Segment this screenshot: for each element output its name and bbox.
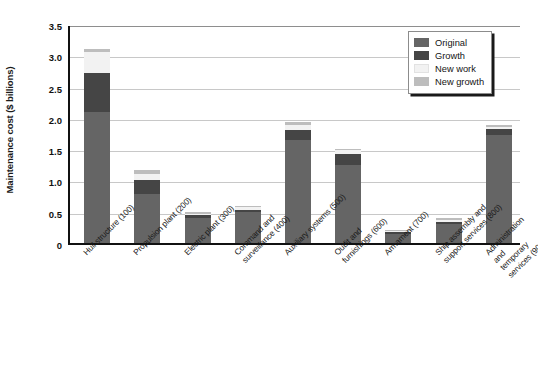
bar-3[interactable] [185, 212, 211, 243]
bar-segment-original [486, 135, 512, 243]
legend-label: Growth [435, 51, 465, 61]
bar-segment-original [235, 212, 261, 243]
y-tick-label: 0.5 [26, 208, 62, 219]
bar-5[interactable] [285, 122, 311, 243]
bar-segment-original [385, 234, 411, 243]
bar-segment-original [185, 218, 211, 243]
bar-segment-original [134, 194, 160, 243]
bar-segment-original [285, 140, 311, 243]
bar-segment-growth [84, 73, 110, 112]
legend-item-original[interactable]: Original [414, 36, 484, 49]
gridline [70, 120, 520, 121]
bar-8[interactable] [436, 218, 462, 243]
bar-segment-growth [335, 154, 361, 165]
bar-segment-new-work [134, 174, 160, 181]
y-tick-label: 0 [26, 240, 62, 251]
y-tick-label: 1.0 [26, 177, 62, 188]
y-tick-label: 2.0 [26, 114, 62, 125]
bar-segment-new-work [84, 52, 110, 73]
bar-segment-original [84, 112, 110, 243]
bar-6[interactable] [335, 149, 361, 243]
bar-1[interactable] [84, 49, 110, 243]
legend-item-new-work[interactable]: New work [414, 62, 484, 75]
bar-4[interactable] [235, 206, 261, 243]
y-tick-label: 2.5 [26, 83, 62, 94]
y-tick-label: 3.5 [26, 21, 62, 32]
y-tick-label: 1.5 [26, 146, 62, 157]
y-axis-title: Maintenance cost ($ billions) [4, 10, 22, 250]
legend-swatch-icon [414, 64, 429, 73]
legend-label: Original [435, 38, 467, 48]
legend: OriginalGrowthNew workNew growth [408, 31, 492, 94]
legend-label: New growth [435, 77, 484, 87]
legend-label: New work [435, 64, 476, 74]
bar-9[interactable] [486, 125, 512, 243]
bar-segment-growth [134, 180, 160, 194]
legend-item-new-growth[interactable]: New growth [414, 75, 484, 88]
bar-segment-growth [285, 130, 311, 140]
bar-2[interactable] [134, 170, 160, 243]
bar-segment-original [335, 165, 361, 243]
legend-item-growth[interactable]: Growth [414, 49, 484, 62]
bar-segment-original [436, 224, 462, 243]
y-tick-label: 3.0 [26, 52, 62, 63]
bar-7[interactable] [385, 230, 411, 243]
legend-swatch-icon [414, 77, 429, 86]
legend-swatch-icon [414, 51, 429, 60]
chart-figure: Maintenance cost ($ billions) 3.53.02.52… [0, 0, 538, 365]
legend-swatch-icon [414, 38, 429, 47]
